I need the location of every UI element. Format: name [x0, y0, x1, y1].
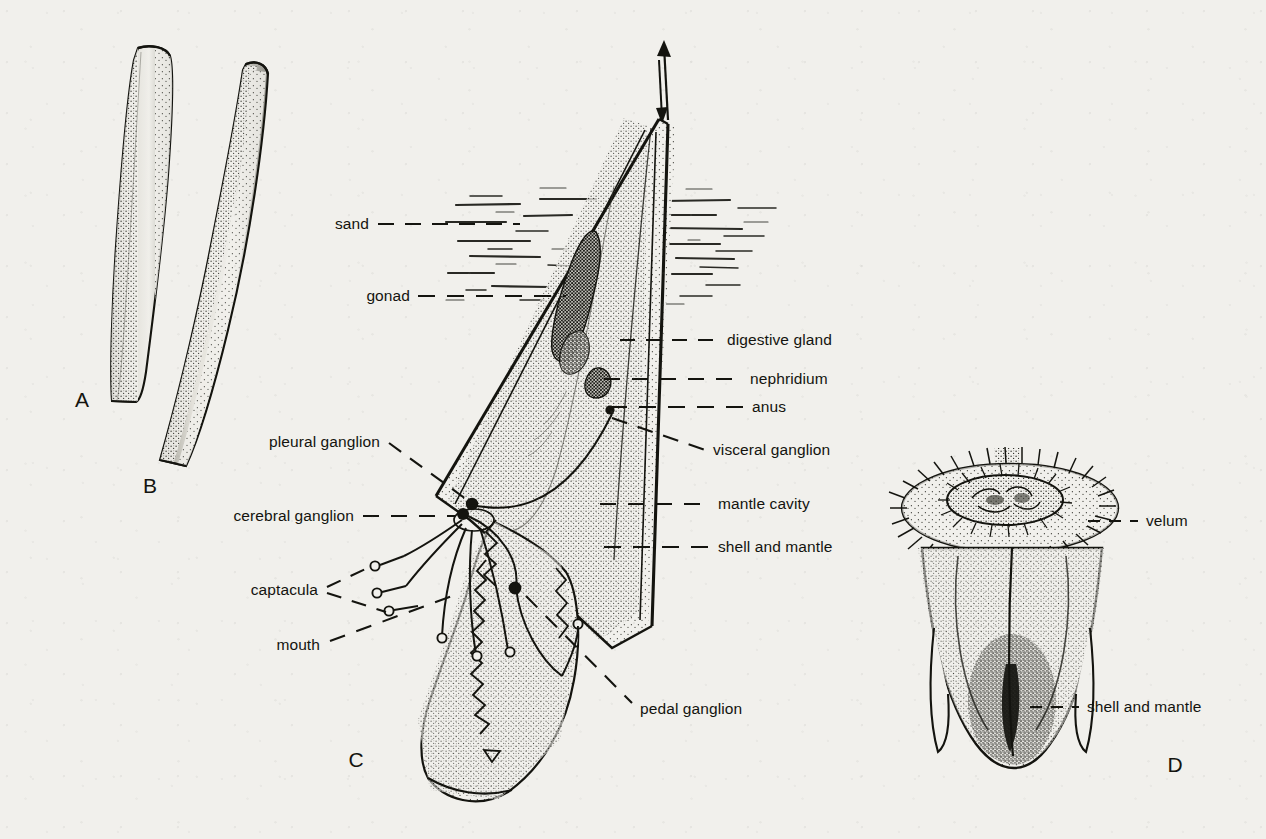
label-gonad: gonad [366, 287, 410, 305]
label-velum: velum [1146, 512, 1188, 530]
label-pleural-ganglion: pleural ganglion [269, 433, 380, 451]
label-anus: anus [752, 398, 786, 416]
pedal-ganglion-node [509, 582, 522, 595]
panel-b-shell [160, 62, 268, 467]
panel-c-animal [370, 40, 776, 810]
label-mouth: mouth [276, 636, 320, 654]
water-current-arrows [656, 40, 671, 124]
label-nephridium: nephridium [750, 370, 828, 388]
leader-mouth [330, 596, 452, 641]
label-sand: sand [335, 215, 369, 233]
panel-a-shell [108, 44, 175, 404]
label-cerebral-ganglion: cerebral ganglion [233, 507, 354, 525]
scaphopod-anatomy-figure: sand gonad digestive gland nephridium an… [0, 0, 1266, 839]
label-mantle-cavity: mantle cavity [718, 495, 810, 513]
panel-letter-d: D [1167, 753, 1182, 777]
figure-artwork [0, 0, 1266, 839]
label-shell-and-mantle: shell and mantle [718, 538, 832, 556]
label-captacula: captacula [251, 581, 318, 599]
leader-captacula-upper [327, 566, 372, 587]
label-shell-and-mantle-d: shell and mantle [1087, 698, 1201, 716]
label-visceral-ganglion: visceral ganglion [713, 441, 830, 459]
panel-d-veliger [889, 447, 1120, 790]
panel-letter-c: C [348, 748, 363, 772]
label-pedal-ganglion: pedal ganglion [640, 700, 742, 718]
panel-letter-a: A [75, 388, 89, 412]
label-digestive-gland: digestive gland [727, 331, 832, 349]
panel-letter-b: B [143, 474, 157, 498]
